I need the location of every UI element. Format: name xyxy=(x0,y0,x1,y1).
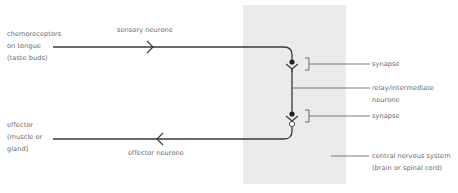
receptor-label-line3: (taste buds) xyxy=(7,52,61,64)
cns-region xyxy=(243,5,346,184)
receptor-label-line1: chemoreceptors xyxy=(7,28,61,40)
effector-neurone-label: effector neurone xyxy=(128,147,184,159)
synapse-top-label: synapse xyxy=(372,58,400,70)
reflex-arc-diagram: chemoreceptors on tongue (taste buds) ef… xyxy=(0,0,458,193)
relay-neurone-label: relay/intermediate neurone xyxy=(372,82,434,106)
effector-label-line3: gland) xyxy=(7,143,42,155)
receptor-label-line2: on tongue xyxy=(7,40,61,52)
synapse-top-knob-icon xyxy=(289,59,294,64)
relay-label-line1: relay/intermediate xyxy=(372,82,434,94)
effector-label: effector (muscle or gland) xyxy=(7,119,42,155)
sensory-neurone-label: sensory neurone xyxy=(117,24,173,36)
cns-label-line1: central nervous system xyxy=(372,150,451,162)
effector-cell-body-icon xyxy=(289,121,294,126)
receptor-label: chemoreceptors on tongue (taste buds) xyxy=(7,28,61,64)
cns-label-line2: (brain or spinal cord) xyxy=(372,162,451,174)
synapse-bottom-knob-icon xyxy=(289,111,294,116)
cns-label: central nervous system (brain or spinal … xyxy=(372,150,451,174)
effector-label-line2: (muscle or xyxy=(7,131,42,143)
effector-label-line1: effector xyxy=(7,119,42,131)
relay-label-line2: neurone xyxy=(372,94,434,106)
synapse-bottom-label: synapse xyxy=(372,110,400,122)
